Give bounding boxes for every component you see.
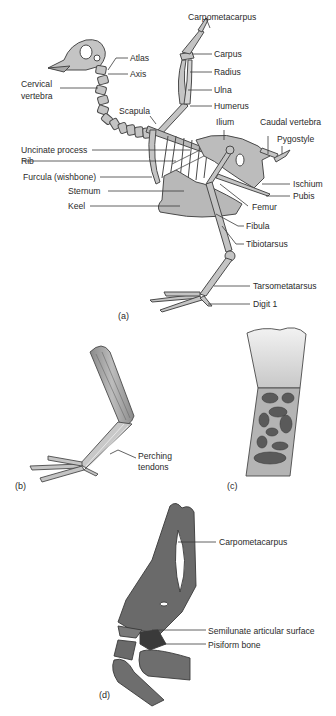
sternum-keel bbox=[158, 170, 242, 217]
skeleton-panel-a bbox=[48, 18, 290, 312]
label-ilium: Ilium bbox=[216, 117, 234, 127]
label-atlas: Atlas bbox=[130, 53, 149, 63]
label-caudal-vertebra: Caudal vertebra bbox=[260, 117, 321, 127]
label-cervical-1: Cervical bbox=[21, 79, 52, 89]
label-tarsometatarsus: Tarsometatarsus bbox=[253, 281, 317, 291]
label-uncinate-process: Uncinate process bbox=[21, 145, 87, 155]
label-humerus: Humerus bbox=[214, 101, 249, 111]
label-carpometacarpus: Carpometacarpus bbox=[188, 12, 256, 22]
carpometacarpus-wing bbox=[182, 30, 204, 54]
label-perching-tendons-2: tendons bbox=[138, 462, 169, 472]
radius-d bbox=[139, 650, 190, 680]
bone-cross-section-panel-c bbox=[246, 328, 306, 476]
shank bbox=[80, 422, 132, 468]
label-semilunate-surface: Semilunate articular surface bbox=[208, 626, 315, 636]
label-radius: Radius bbox=[214, 67, 241, 77]
label-pisiform-bone: Pisiform bone bbox=[208, 640, 261, 650]
label-rib: Rib bbox=[21, 156, 34, 166]
furcula bbox=[149, 130, 160, 184]
caption-panel-b: (b) bbox=[15, 481, 26, 491]
caption-panel-d: (d) bbox=[99, 690, 110, 700]
radiale bbox=[114, 640, 136, 660]
label-cervical-2: vertebra bbox=[21, 91, 53, 101]
label-perching-tendons-1: Perching bbox=[138, 451, 172, 461]
label-ischium: Ischium bbox=[293, 179, 323, 189]
label-pubis: Pubis bbox=[293, 191, 315, 201]
label-pygostyle: Pygostyle bbox=[277, 134, 314, 144]
label-fibula: Fibula bbox=[246, 221, 269, 231]
label-tibiotarsus: Tibiotarsus bbox=[246, 239, 288, 249]
label-furcula: Furcula (wishbone) bbox=[23, 172, 96, 182]
perching-leader bbox=[110, 450, 136, 458]
thigh-muscle bbox=[90, 346, 134, 425]
pisiform-bone bbox=[140, 630, 166, 650]
label-axis: Axis bbox=[130, 69, 146, 79]
label-ulna: Ulna bbox=[214, 85, 232, 95]
label-scapula: Scapula bbox=[119, 106, 150, 116]
label-sternum: Sternum bbox=[68, 186, 100, 196]
label-carpus: Carpus bbox=[214, 49, 242, 59]
bird-skeleton-figure bbox=[0, 0, 336, 716]
label-keel: Keel bbox=[68, 201, 85, 211]
caption-panel-c: (c) bbox=[227, 481, 238, 491]
leg-panel-b bbox=[30, 346, 134, 482]
label-carpometacarpus-d: Carpometacarpus bbox=[219, 537, 287, 547]
tarsometatarsus bbox=[200, 258, 232, 296]
wrist-panel-d bbox=[113, 503, 196, 706]
label-femur: Femur bbox=[252, 202, 277, 212]
label-digit-1: Digit 1 bbox=[253, 299, 277, 309]
caption-panel-a: (a) bbox=[118, 311, 129, 321]
